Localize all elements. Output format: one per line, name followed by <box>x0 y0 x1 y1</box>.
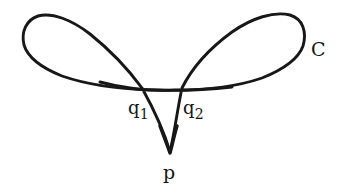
left-lobe-path <box>23 15 232 152</box>
crossing-label-q1-base: q <box>128 97 140 118</box>
crossing-label-q1: q1 <box>128 99 148 117</box>
crossing-label-q2-subscript: 2 <box>195 106 204 122</box>
curve-figure: C q1 q2 p <box>0 0 347 196</box>
crossing-label-q2: q2 <box>183 99 203 117</box>
right-lobe-path <box>100 14 304 152</box>
curve-label-c: C <box>311 40 326 59</box>
crossing-label-q2-base: q <box>183 97 195 118</box>
cusp-tip-path <box>160 126 177 153</box>
crossing-label-q1-subscript: 1 <box>140 106 149 122</box>
cusp-label-p: p <box>163 163 175 182</box>
